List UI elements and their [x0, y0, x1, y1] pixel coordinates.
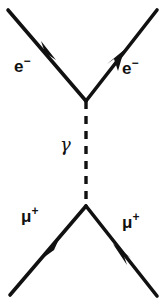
label-muon-left: μ+ [21, 208, 38, 225]
label-outgoing-electron: e− [122, 60, 138, 77]
label-incoming-electron: e− [14, 58, 30, 75]
label-muon-right-symbol: μ [122, 213, 132, 232]
feynman-diagram-canvas: e− e− γ μ+ μ+ [0, 0, 166, 306]
label-incoming-electron-charge: − [23, 54, 30, 68]
incoming-electron-stroke [8, 10, 86, 101]
label-outgoing-electron-charge: − [131, 56, 138, 70]
label-muon-left-symbol: μ [21, 207, 31, 226]
label-photon: γ [60, 136, 71, 154]
label-muon-right: μ+ [122, 214, 139, 231]
label-muon-left-charge: + [31, 204, 38, 218]
outgoing-electron-line [86, 10, 157, 101]
outgoing-muon-left-arrowhead [43, 239, 61, 258]
incoming-electron-line [8, 10, 86, 101]
label-muon-right-charge: + [132, 210, 139, 224]
feynman-diagram-graphic [0, 0, 166, 306]
